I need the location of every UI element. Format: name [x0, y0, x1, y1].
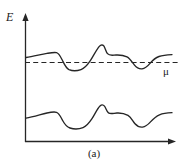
energy-axis-label: E	[6, 11, 13, 23]
energy-axis-arrowhead-icon	[22, 13, 28, 21]
position-axis-arrowhead-icon	[168, 138, 176, 144]
panel-caption: (a)	[0, 148, 188, 159]
upper-band-curve	[26, 45, 172, 71]
figure-canvas	[0, 0, 188, 166]
band-structure-figure: E μ (a)	[0, 0, 188, 166]
position-axis	[25, 138, 176, 144]
chemical-potential-label: μ	[163, 66, 169, 77]
energy-axis	[22, 13, 28, 142]
lower-band-curve	[26, 105, 172, 129]
